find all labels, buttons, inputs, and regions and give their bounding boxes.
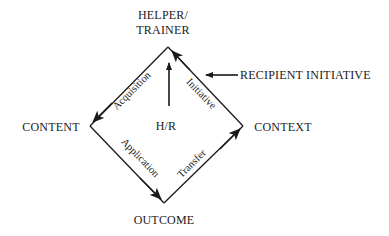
node-helper-label-line1: HELPER/ <box>138 8 189 22</box>
node-center-hr-label: H/R <box>156 119 177 133</box>
edge-initiative-label: Initiative <box>184 76 218 111</box>
acquisition-arrow-icon <box>93 103 112 122</box>
node-trainer-label-line2: TRAINER <box>136 23 189 37</box>
edge-application-label: Application <box>119 136 162 180</box>
edge-transfer-label: Transfer <box>175 147 208 180</box>
diagram-canvas: HELPER/ TRAINER CONTENT CONTEXT OUTCOME … <box>0 0 389 236</box>
application-arrow-icon <box>140 178 161 199</box>
edge-acquisition-label: Acquisition <box>110 69 153 112</box>
transfer-arrow-icon <box>220 129 240 149</box>
initiative-arrow-icon <box>172 51 190 70</box>
diamond-diagram: HELPER/ TRAINER CONTENT CONTEXT OUTCOME … <box>0 0 389 236</box>
node-context-label: CONTEXT <box>254 120 312 134</box>
node-content-label: CONTENT <box>22 120 80 134</box>
recipient-initiative-label: RECIPIENT INITIATIVE <box>240 68 371 82</box>
node-outcome-label: OUTCOME <box>134 213 195 227</box>
